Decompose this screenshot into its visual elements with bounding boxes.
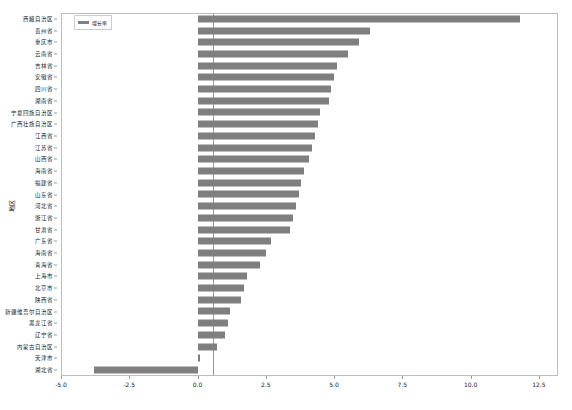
y-axis-tick-mark [54, 18, 57, 19]
y-axis-tick-mark [54, 30, 57, 31]
x-axis-tick-label: 0.0 [193, 381, 203, 388]
bar [198, 355, 201, 362]
y-axis-tick-mark [54, 100, 57, 101]
bar-row [61, 72, 558, 84]
x-axis-tick-label: -5.0 [55, 381, 67, 388]
bar-row [61, 48, 558, 60]
y-axis-tick-mark [54, 89, 57, 90]
bar-row [61, 235, 558, 247]
bar [198, 191, 299, 198]
y-axis-tick-label: 上海市 [35, 273, 53, 279]
x-axis-tick-mark [129, 376, 130, 379]
bar-row [61, 352, 558, 364]
bar-row [61, 200, 558, 212]
bar-row [61, 25, 558, 37]
y-axis-tick-mark [54, 217, 57, 218]
bar-row [61, 224, 558, 236]
bar-row [61, 212, 558, 224]
x-axis-tick-mark [61, 376, 62, 379]
y-axis-tick-label: 新疆维吾尔自治区 [5, 309, 53, 315]
bar [198, 97, 329, 104]
y-axis-tick-label: 陕西省 [35, 297, 53, 303]
y-axis-tick-label: 广西壮族自治区 [11, 121, 53, 127]
bar [198, 15, 520, 22]
bar-row [61, 60, 558, 72]
x-axis-tick-mark [471, 376, 472, 379]
y-axis-tick-label: 山西省 [35, 156, 53, 162]
y-axis-tick-mark [54, 53, 57, 54]
y-axis-tick-mark [54, 264, 57, 265]
bar-row [61, 341, 558, 353]
y-axis-tick-mark [54, 135, 57, 136]
y-axis-tick-label: 天津市 [35, 355, 53, 361]
y-axis-tick-label: 江苏省 [35, 145, 53, 151]
bar-row [61, 247, 558, 259]
bar [198, 27, 370, 34]
y-axis-tick-mark [54, 171, 57, 172]
y-axis-tick-label: 甘肃省 [35, 227, 53, 233]
y-axis-tick-label: 海南省 [35, 168, 53, 174]
y-axis-tick-mark [54, 42, 57, 43]
y-axis-tick-label: 河北省 [35, 203, 53, 209]
bar [198, 273, 247, 280]
y-axis-tick-mark [54, 335, 57, 336]
bar-row [61, 165, 558, 177]
y-axis-tick-label: 贵州省 [35, 28, 53, 34]
y-axis-tick-mark [54, 112, 57, 113]
y-axis-tick-mark [54, 323, 57, 324]
bar [198, 203, 296, 210]
y-axis-tick-labels: 西藏自治区贵州省重庆市云南省吉林省安徽省四川省湖南省宁夏回族自治区广西壮族自治区… [0, 13, 57, 376]
bar [198, 249, 266, 256]
y-axis-tick-mark [54, 194, 57, 195]
legend-label: 增长率 [92, 19, 107, 26]
bar [198, 121, 318, 128]
bar-row [61, 270, 558, 282]
y-axis-tick-mark [54, 182, 57, 183]
y-axis-tick-label: 青海省 [35, 262, 53, 268]
x-axis-tick-label: 5.0 [329, 381, 339, 388]
y-axis-tick-label: 海南省 [35, 250, 53, 256]
x-axis-tick-mark [334, 376, 335, 379]
y-axis-tick-mark [54, 299, 57, 300]
bar-row [61, 142, 558, 154]
y-axis-tick-mark [54, 229, 57, 230]
bar-row [61, 95, 558, 107]
bar [198, 343, 217, 350]
bar [198, 179, 302, 186]
bar-row [61, 13, 558, 25]
bar-row [61, 118, 558, 130]
y-axis-tick-mark [54, 147, 57, 148]
y-axis-tick-label: 云南省 [35, 51, 53, 57]
bar [198, 167, 305, 174]
y-axis-tick-label: 四川省 [35, 86, 53, 92]
y-axis-tick-label: 宁夏回族自治区 [11, 110, 53, 116]
bar [198, 39, 359, 46]
bar [198, 331, 225, 338]
bar [198, 74, 335, 81]
x-axis-tick-mark [266, 376, 267, 379]
bar [198, 132, 315, 139]
bar-row [61, 36, 558, 48]
bar [198, 50, 348, 57]
bar [198, 109, 321, 116]
y-axis-tick-label: 辽宁省 [35, 332, 53, 338]
y-axis-tick-label: 西藏自治区 [23, 16, 53, 22]
x-axis-tick-labels: -5.0-2.50.02.55.07.510.012.5 [0, 376, 572, 396]
y-axis-tick-mark [54, 241, 57, 242]
bar [198, 261, 261, 268]
bar-row [61, 364, 558, 376]
y-axis-tick-label: 安徽省 [35, 74, 53, 80]
y-axis-tick-label: 山东省 [35, 192, 53, 198]
y-axis-tick-mark [54, 346, 57, 347]
y-axis-tick-mark [54, 288, 57, 289]
bar-row [61, 177, 558, 189]
y-axis-tick-mark [54, 206, 57, 207]
legend-swatch-icon [78, 21, 89, 24]
y-axis-tick-label: 广东省 [35, 238, 53, 244]
bar-row [61, 83, 558, 95]
y-axis-tick-label: 湖北省 [35, 367, 53, 373]
bar-series [61, 13, 558, 376]
y-axis-tick-label: 吉林省 [35, 63, 53, 69]
y-axis-tick-label: 浙江省 [35, 215, 53, 221]
y-axis-tick-label: 重庆市 [35, 39, 53, 45]
